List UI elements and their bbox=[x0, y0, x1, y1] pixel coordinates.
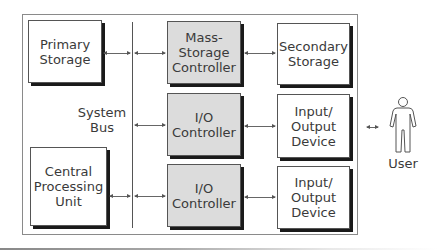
box-label-line: Input/ bbox=[294, 175, 332, 190]
arrow-controller-io-device-1 bbox=[245, 126, 275, 127]
box-label-line: Device bbox=[291, 134, 335, 149]
box-label-line: Storage bbox=[288, 54, 339, 69]
io-device-box-2: Input/ Output Device bbox=[277, 166, 350, 229]
system-bus-line bbox=[132, 22, 133, 228]
box-label-line: Storage bbox=[179, 45, 230, 60]
box-label-line: Input/ bbox=[294, 104, 332, 119]
io-device-box-1: Input/ Output Device bbox=[277, 94, 350, 158]
arrow-primary-storage-bus bbox=[104, 53, 130, 54]
box-label-line: Device bbox=[291, 205, 335, 220]
box-label-line: Controller bbox=[172, 60, 236, 75]
mass-storage-controller-box: Mass- Storage Controller bbox=[167, 21, 241, 84]
box-label-line: Controller bbox=[172, 196, 236, 211]
box-label-line: Output bbox=[291, 119, 336, 134]
user-person-icon bbox=[386, 96, 420, 154]
box-label-line: I/O bbox=[195, 181, 213, 196]
arrow-bus-io-controller-2 bbox=[135, 196, 165, 197]
arrow-io-device-user bbox=[367, 127, 378, 128]
box-label-line: Central bbox=[45, 164, 92, 179]
box-label-line: Controller bbox=[172, 125, 236, 140]
cpu-box: Central Processing Unit bbox=[30, 147, 107, 226]
arrow-controller-io-device-2 bbox=[245, 197, 275, 198]
io-controller-box-1: I/O Controller bbox=[167, 93, 241, 156]
bus-label-line: System bbox=[76, 105, 128, 120]
box-label-line: Processing bbox=[34, 179, 103, 194]
system-bus-label: System Bus bbox=[76, 105, 128, 135]
arrow-bus-io-controller-1 bbox=[135, 125, 165, 126]
io-controller-box-2: I/O Controller bbox=[167, 164, 241, 227]
box-label-line: I/O bbox=[195, 110, 213, 125]
arrow-bus-mass-storage-controller bbox=[135, 53, 165, 54]
box-label-line: Primary bbox=[40, 37, 90, 52]
user-label: User bbox=[383, 156, 423, 171]
box-label-line: Unit bbox=[55, 194, 81, 209]
primary-storage-box: Primary Storage bbox=[28, 20, 102, 83]
arrow-controller-secondary-storage bbox=[245, 53, 275, 54]
box-label-line: Mass- bbox=[185, 30, 222, 45]
box-label-line: Secondary bbox=[279, 39, 348, 54]
secondary-storage-box: Secondary Storage bbox=[277, 23, 350, 85]
box-label-line: Output bbox=[291, 190, 336, 205]
bus-label-line: Bus bbox=[76, 120, 128, 135]
bottom-divider bbox=[0, 248, 437, 250]
arrow-cpu-bus bbox=[110, 196, 130, 197]
box-label-line: Storage bbox=[40, 52, 91, 67]
